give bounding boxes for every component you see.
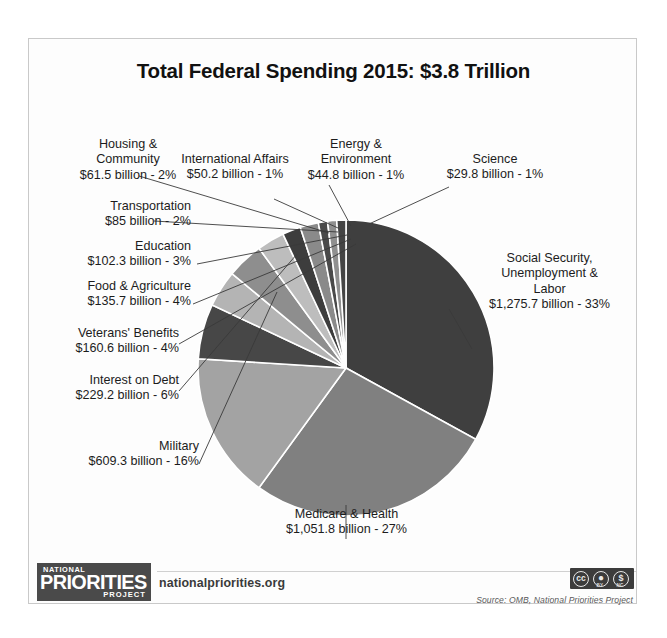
- slice-label-social-security: Social Security, Unemployment & Labor $1…: [472, 251, 627, 312]
- slice-label-military: Military $609.3 billion - 16%: [39, 439, 199, 470]
- chart-frame: Total Federal Spending 2015: $3.8 Trilli…: [28, 38, 637, 604]
- national-priorities-logo: NATIONAL PRIORITIES PROJECT: [37, 563, 151, 601]
- slice-label-transportation: Transportation $85 billion - 2%: [53, 199, 191, 230]
- creative-commons-badge[interactable]: cc ● $ BY NC: [570, 568, 634, 589]
- logo-line-project: PROJECT: [103, 590, 146, 599]
- slice-label-energy-environment: Energy & Environment $44.8 billion - 1%: [301, 137, 411, 183]
- source-attribution: Source: OMB, National Priorities Project: [476, 595, 633, 605]
- cc-icon: cc: [573, 571, 589, 587]
- website-url[interactable]: nationalpriorities.org: [159, 576, 285, 590]
- slice-label-veterans-benefits: Veterans' Benefits $160.6 billion - 4%: [29, 326, 179, 357]
- cc-nc-label: NC: [612, 583, 628, 588]
- slice-label-education: Education $102.3 billion - 3%: [43, 239, 191, 270]
- footer-divider: [157, 571, 636, 572]
- slice-label-food-agriculture: Food & Agriculture $135.7 billion - 4%: [33, 279, 191, 310]
- cc-by-label: BY: [592, 583, 608, 588]
- chart-footer: NATIONAL PRIORITIES PROJECT nationalprio…: [29, 559, 638, 605]
- slice-label-science: Science $29.8 billion - 1%: [432, 152, 558, 183]
- slice-label-interest-on-debt: Interest on Debt $229.2 billion - 6%: [29, 373, 179, 404]
- slice-label-international-affairs: International Affairs $50.2 billion - 1%: [166, 152, 304, 183]
- slice-label-medicare-health: Medicare & Health $1,051.8 billion - 27%: [264, 507, 429, 538]
